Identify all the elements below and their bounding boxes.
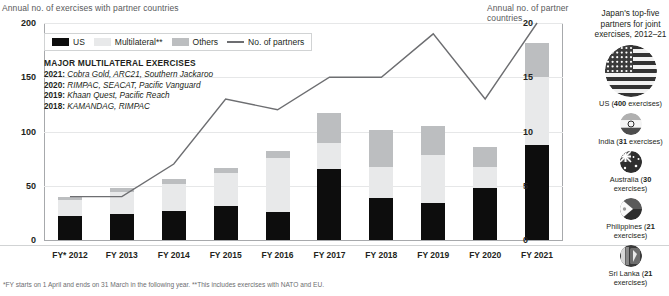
sidebar-entry-suffix: exercises) <box>614 184 648 193</box>
annotation-title: MAJOR MULTILATERAL EXERCISES <box>44 58 213 69</box>
legend-label-others: Others <box>193 37 219 47</box>
legend-label-multilateral: Multilateral** <box>115 37 163 47</box>
sidebar-entry-count: 30 <box>643 175 651 184</box>
plot-area <box>44 23 563 240</box>
sidebar-entry-caption: Sri Lanka (21 exercises) <box>592 269 669 287</box>
sidebar-entry-caption: US (400 exercises) <box>592 99 669 108</box>
sidebar-entry-name: US ( <box>599 99 614 108</box>
x-axis-rule <box>0 245 669 246</box>
annotation-row-text: RIMPAC, SEACAT, Pacific Vanguard <box>67 81 200 90</box>
sidebar-entry-suffix: exercises) <box>614 231 648 240</box>
sidebar-entry-name: India ( <box>598 137 619 146</box>
sidebar-entry-count: 31 <box>619 137 627 146</box>
x-axis-labels: FY* 2012FY 2013FY 2014FY 2015FY 2016FY 2… <box>44 250 563 264</box>
chart-panel: Annual no. of exercises with partner cou… <box>0 0 590 296</box>
left-axis-tick: 0 <box>2 235 36 245</box>
sidebar-entry: India (31 exercises) <box>592 113 669 146</box>
legend-item-partners: No. of partners <box>227 37 304 47</box>
sidebar-entry-caption: Australia (30 exercises) <box>592 175 669 193</box>
annotation-row-year: 2019: <box>44 91 67 100</box>
legend-swatch-others-icon <box>172 38 189 46</box>
legend-item-multilateral: Multilateral** <box>94 37 163 47</box>
legend-swatch-line-icon <box>227 41 244 43</box>
sidebar-entry-count: 400 <box>614 99 626 108</box>
legend-label-partners: No. of partners <box>248 37 304 47</box>
left-axis-title: Annual no. of exercises with partner cou… <box>2 3 179 13</box>
annotation-row: 2021: Cobra Gold, ARC21, Southern Jackar… <box>44 70 213 81</box>
legend-item-others: Others <box>172 37 219 47</box>
sidebar-entry-name: Sri Lanka ( <box>609 269 645 278</box>
right-axis-tick: 5 <box>523 181 557 191</box>
annotation-row-year: 2018: <box>44 102 67 111</box>
annotation-row-text: Cobra Gold, ARC21, Southern Jackaroo <box>67 70 213 79</box>
sidebar-top-partners: Japan's top-five partners for joint exer… <box>592 0 669 296</box>
sidebar-title: Japan's top-five partners for joint exer… <box>592 8 669 40</box>
annotation-row-year: 2020: <box>44 81 67 90</box>
right-axis-tick: 20 <box>523 18 557 28</box>
sidebar-entry-name: Philippines ( <box>606 222 646 231</box>
sidebar-entry-name: Australia ( <box>610 175 643 184</box>
legend-swatch-multilateral-icon <box>94 38 111 46</box>
annotation-row: 2018: KAMANDAG, RIMPAC <box>44 102 213 113</box>
sidebar-entry-count: 21 <box>644 269 652 278</box>
legend-label-us: US <box>73 37 85 47</box>
sidebar-entries: US (400 exercises) India (31 exercises) … <box>592 45 669 287</box>
annotation-row-year: 2021: <box>44 70 67 79</box>
right-axis-tick: 0 <box>523 235 557 245</box>
philippines-flag-icon <box>620 198 642 220</box>
india-flag-icon <box>620 113 642 135</box>
sidebar-entry-caption: Philippines (21 exercises) <box>592 222 669 240</box>
annotation-row-text: KAMANDAG, RIMPAC <box>67 102 150 111</box>
footnote: *FY starts on 1 April and ends on 31 Mar… <box>3 281 324 288</box>
us-flag-icon <box>605 45 657 97</box>
partners-line-series <box>44 23 563 240</box>
sidebar-entry-count: 21 <box>647 222 655 231</box>
sidebar-entry: Philippines (21 exercises) <box>592 198 669 240</box>
australia-flag-icon <box>620 151 642 173</box>
srilanka-flag-icon <box>620 245 642 267</box>
sidebar-entry: Sri Lanka (21 exercises) <box>592 245 669 287</box>
left-axis-tick: 50 <box>2 181 36 191</box>
sidebar-entry-suffix: exercises) <box>626 99 662 108</box>
x-axis-line <box>44 240 563 241</box>
x-axis-label: FY 2021 <box>507 250 567 260</box>
legend-item-us: US <box>52 37 85 47</box>
annotation-row: 2020: RIMPAC, SEACAT, Pacific Vanguard <box>44 81 213 92</box>
sidebar-entry-caption: India (31 exercises) <box>592 137 669 146</box>
annotation-rows: 2021: Cobra Gold, ARC21, Southern Jackar… <box>44 70 213 112</box>
chart-legend: US Multilateral** Others No. of partners <box>44 33 312 51</box>
sidebar-entry-suffix: exercises) <box>614 278 648 287</box>
sidebar-entry: Australia (30 exercises) <box>592 151 669 193</box>
legend-swatch-us-icon <box>52 38 69 46</box>
sidebar-entry: US (400 exercises) <box>592 45 669 108</box>
left-axis-tick: 100 <box>2 127 36 137</box>
right-axis-tick: 10 <box>523 127 557 137</box>
right-axis-tick: 15 <box>523 72 557 82</box>
annotation-row: 2019: Khaan Quest, Pacific Reach <box>44 91 213 102</box>
annotation-block: MAJOR MULTILATERAL EXERCISES 2021: Cobra… <box>44 58 213 112</box>
sidebar-entry-suffix: exercises) <box>627 137 663 146</box>
annotation-row-text: Khaan Quest, Pacific Reach <box>67 91 169 100</box>
left-axis-tick: 200 <box>2 18 36 28</box>
left-axis-tick: 150 <box>2 72 36 82</box>
